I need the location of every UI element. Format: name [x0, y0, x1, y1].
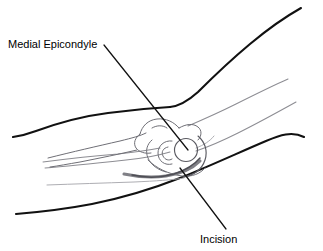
illustration-figure: Medial Epicondyle Incision [0, 0, 323, 251]
label-medial-epicondyle: Medial Epicondyle [8, 38, 97, 50]
label-incision: Incision [200, 233, 237, 245]
elbow-diagram: Medial Epicondyle Incision [0, 0, 323, 251]
